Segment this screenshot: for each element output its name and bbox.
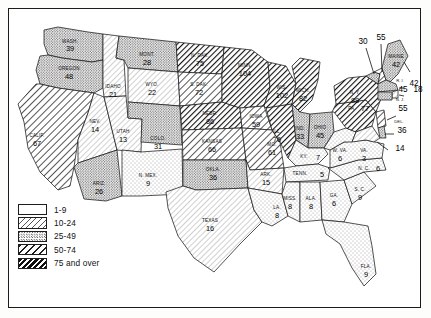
- label-texas-value: 16: [206, 224, 214, 233]
- legend-label: 50-74: [54, 245, 76, 255]
- label-idaho-name: IDAHO: [105, 84, 121, 89]
- label-wva-name: W. VA.: [333, 148, 348, 153]
- state-connecticut: [378, 92, 392, 100]
- legend-item: 50-74: [18, 243, 99, 256]
- label-okla-name: OKLA.: [206, 167, 221, 172]
- label-utah-value: 13: [119, 135, 127, 144]
- label-ark-name: ARK.: [260, 172, 272, 177]
- label-ala-name: ALA.: [306, 196, 317, 201]
- label-nev-value: 14: [91, 125, 99, 134]
- map-figure: WASH. 39 OREGON 48 IDAHO 21 MONT. 28 N. …: [0, 0, 431, 318]
- label-nc-value: 6: [376, 164, 380, 173]
- label-ind-name: IND.: [295, 126, 305, 131]
- label-minn-name: MINN.: [238, 63, 252, 68]
- label-calif-value: 67: [33, 139, 41, 148]
- legend-item: 75 and over: [18, 257, 99, 270]
- label-ohio-value: 45: [316, 131, 324, 140]
- label-ohio-name: OHIO: [314, 125, 327, 130]
- callout-vermont-value: 30: [358, 37, 368, 46]
- label-iowa-value: 59: [252, 120, 260, 129]
- callout-newhampshire-value: 55: [376, 33, 386, 42]
- label-fla-value: 9: [364, 270, 368, 279]
- label-mont-value: 28: [143, 58, 151, 67]
- us-map-svg: WASH. 39 OREGON 48 IDAHO 21 MONT. 28 N. …: [0, 0, 431, 318]
- label-va-name: VA.: [360, 148, 368, 153]
- legend-label: 25-49: [54, 231, 76, 241]
- legend-swatch-75-over: [18, 258, 47, 269]
- label-ny-name: N. Y.: [350, 90, 361, 95]
- label-ga-value: 6: [332, 199, 336, 208]
- label-kansas-value: 66: [208, 145, 216, 154]
- label-ariz-name: ARIZ.: [93, 181, 106, 186]
- label-nebr-name: NEBR.: [202, 111, 217, 116]
- legend-swatch-25-49: [18, 231, 47, 242]
- callout-del-value: 36: [397, 126, 407, 135]
- label-okla-value: 36: [209, 173, 217, 182]
- legend-label: 75 and over: [54, 258, 99, 268]
- label-mich-name: MICH.: [296, 88, 310, 93]
- label-la-value: 8: [275, 211, 279, 220]
- label-wis-value: 102: [276, 91, 288, 100]
- legend-item: 10-24: [18, 216, 99, 229]
- label-ndak-value: 75: [196, 59, 204, 68]
- label-ndak-name: N. DAK.: [191, 53, 209, 58]
- label-sdak-value: 72: [195, 88, 203, 97]
- state-michigan: [292, 58, 320, 112]
- label-ky-name: KY.: [300, 154, 307, 159]
- legend-swatch-10-24: [18, 217, 47, 228]
- legend-item: 25-49: [18, 230, 99, 243]
- label-oregon-name: OREGON: [58, 66, 80, 71]
- label-fla-name: FLA.: [361, 264, 372, 269]
- label-pa-name: PA.: [348, 106, 356, 111]
- label-nebr-value: 86: [206, 117, 214, 126]
- legend-swatch-50-74: [18, 244, 47, 255]
- label-sc-name: S. C.: [354, 187, 365, 192]
- label-nmex-name: N. MEX.: [139, 173, 158, 178]
- label-ny-value: 88: [351, 96, 359, 105]
- callout-ri-value: 18: [413, 85, 423, 94]
- label-colo-value: 31: [154, 142, 162, 151]
- callout-del-name: DEL.: [394, 119, 403, 124]
- label-wva-value: 6: [338, 154, 342, 163]
- state-kansas: [182, 128, 246, 160]
- label-va-value: 3: [362, 154, 366, 163]
- label-wash-value: 39: [66, 44, 74, 53]
- label-mo-value: 61: [268, 148, 276, 157]
- label-ga-name: GA.: [330, 193, 339, 198]
- state-newjersey: [376, 110, 386, 128]
- label-nc-name: N. C.: [358, 166, 369, 171]
- label-wyo-name: WYO.: [145, 82, 158, 87]
- label-ala-value: 8: [309, 202, 313, 211]
- callout-ri-name: R. I.: [396, 78, 404, 83]
- callout-md-value: 14: [395, 144, 405, 153]
- label-ariz-value: 26: [95, 187, 103, 196]
- us-map-canvas: WASH. 39 OREGON 48 IDAHO 21 MONT. 28 N. …: [0, 0, 431, 318]
- label-kansas-name: KANSAS: [202, 139, 222, 144]
- label-ky-value: 7: [316, 153, 320, 162]
- label-ark-value: 15: [262, 178, 270, 187]
- label-ill-name: ILL.: [273, 129, 281, 134]
- label-miss-name: MISS.: [283, 196, 297, 201]
- label-nev-name: NEV.: [89, 119, 100, 124]
- label-mo-name: MO.: [267, 142, 276, 147]
- label-miss-value: 8: [288, 202, 292, 211]
- label-ind-value: 33: [296, 132, 304, 141]
- label-oregon-value: 48: [65, 72, 73, 81]
- label-la-name: LA.: [273, 205, 281, 210]
- callout-nj-name: N. J.: [396, 97, 405, 102]
- legend-label: 1-9: [54, 205, 66, 215]
- label-maine-value: 42: [392, 60, 400, 69]
- label-tenn-value: 5: [320, 170, 324, 179]
- label-sc-value: 9: [358, 193, 362, 202]
- label-idaho-value: 21: [109, 90, 117, 99]
- label-minn-value: 104: [239, 69, 251, 78]
- callout-conn-value: 45: [398, 85, 408, 94]
- legend-item: 1-9: [18, 203, 99, 216]
- label-calif-name: CALIF.: [30, 133, 45, 138]
- label-mont-name: MONT.: [139, 52, 154, 57]
- state-wyoming: [128, 68, 180, 106]
- legend-swatch-1-9: [18, 204, 47, 215]
- label-pa-value: 77: [361, 104, 369, 113]
- label-mich-value: 82: [299, 94, 307, 103]
- label-tenn-name: TENN.: [293, 171, 308, 176]
